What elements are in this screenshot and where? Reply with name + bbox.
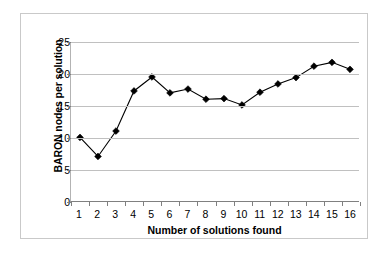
x-axis-tick-mark	[360, 202, 361, 206]
data-point-marker	[257, 89, 264, 96]
x-axis-tick-mark	[179, 202, 180, 206]
x-axis-tick-mark	[89, 202, 90, 206]
y-axis-tick-mark	[67, 74, 71, 75]
data-point-marker	[185, 86, 192, 93]
data-point-marker	[275, 81, 282, 88]
data-point-marker	[329, 59, 336, 66]
plot-area	[70, 42, 359, 202]
x-axis-tick-mark	[71, 202, 72, 206]
data-point-marker	[221, 95, 228, 102]
chart-figure: BARON nodes per solution 2520151050 1234…	[0, 0, 385, 254]
x-axis-title: Number of solutions found	[70, 224, 359, 236]
y-axis-tick-labels: 2520151050	[49, 37, 70, 207]
gridline	[71, 106, 359, 107]
x-axis-tick-mark	[143, 202, 144, 206]
x-axis-tick-mark	[216, 202, 217, 206]
x-axis-tick-mark	[161, 202, 162, 206]
y-axis-tick-mark	[67, 170, 71, 171]
gridline	[71, 74, 359, 75]
y-axis-tick-mark	[67, 42, 71, 43]
data-point-marker	[293, 74, 300, 81]
x-axis-tick-mark	[234, 202, 235, 206]
data-point-marker	[311, 63, 318, 70]
x-axis-tick-mark	[252, 202, 253, 206]
gridline	[71, 138, 359, 139]
x-axis-tick-mark	[125, 202, 126, 206]
chart-frame: BARON nodes per solution 2520151050 1234…	[20, 13, 368, 239]
x-axis-tick-labels: 12345678910111213141516	[70, 208, 359, 222]
data-series-line	[71, 42, 359, 201]
x-axis-tick-label: 16	[338, 208, 362, 220]
data-point-marker	[203, 96, 210, 103]
x-axis-tick-mark	[270, 202, 271, 206]
x-axis-tick-mark	[324, 202, 325, 206]
gridline	[71, 170, 359, 171]
x-axis-tick-mark	[197, 202, 198, 206]
x-axis-tick-mark	[107, 202, 108, 206]
y-axis-tick-mark	[67, 106, 71, 107]
x-axis-tick-mark	[306, 202, 307, 206]
x-axis-tick-mark	[288, 202, 289, 206]
data-point-marker	[113, 128, 120, 135]
x-axis-tick-mark	[342, 202, 343, 206]
data-point-marker	[347, 66, 354, 73]
series-polyline	[80, 62, 350, 156]
data-point-marker	[239, 102, 246, 109]
y-axis-tick-mark	[67, 138, 71, 139]
gridline	[71, 42, 359, 43]
